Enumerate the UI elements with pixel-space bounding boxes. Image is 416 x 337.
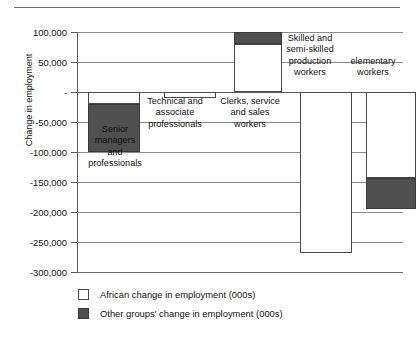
category-label: elementary workers [340, 56, 406, 79]
chart-legend: African change in employment (000s) Othe… [78, 288, 398, 326]
legend-item-other-groups: Other groups' change in employment (000s… [78, 307, 398, 320]
y-tick-100000 [71, 32, 78, 33]
y-tick-label-0: - [64, 87, 67, 98]
y-tick-label--250000: -250,000 [30, 237, 67, 248]
bar-segment-other-groups[interactable] [366, 178, 416, 209]
legend-item-african: African change in employment (000s) [78, 288, 398, 301]
bar-group[interactable] [164, 32, 216, 272]
y-tick-0 [71, 92, 78, 93]
legend-label-other-groups: Other groups' change in employment (000s… [100, 308, 283, 319]
legend-swatch-african-icon [78, 289, 89, 300]
y-tick-label--200000: -200,000 [30, 207, 67, 218]
bar-segment-african[interactable] [366, 92, 416, 178]
y-tick-label--300000: -300,000 [30, 267, 67, 278]
y-tick--150000 [71, 182, 78, 183]
y-tick--200000 [71, 212, 78, 213]
bar-segment-african[interactable] [88, 92, 140, 104]
y-tick-50000 [71, 62, 78, 63]
legend-label-african: African change in employment (000s) [100, 289, 255, 300]
y-tick-label--50000: -50,000 [35, 117, 67, 128]
bar-segment-african[interactable] [300, 92, 352, 253]
y-tick--50000 [71, 122, 78, 123]
top-divider-rule [14, 7, 400, 8]
gridline--300000 [78, 272, 403, 273]
legend-swatch-other-icon [78, 308, 89, 319]
y-tick--250000 [71, 242, 78, 243]
y-tick-label-100000: 100,000 [33, 27, 67, 38]
y-tick-label--150000: -150,000 [30, 177, 67, 188]
y-tick--300000 [71, 272, 78, 273]
category-label: Skilled and semi-skilled production work… [274, 33, 346, 79]
y-tick-label-50000: 50,000 [38, 57, 67, 68]
category-label: Technical and associate professionals [136, 96, 214, 130]
category-label: Clerks, service and sales workers [214, 96, 286, 130]
category-label: Senior managers and professionals [78, 124, 152, 170]
y-tick--100000 [71, 152, 78, 153]
y-tick-label--100000: -100,000 [30, 147, 67, 158]
